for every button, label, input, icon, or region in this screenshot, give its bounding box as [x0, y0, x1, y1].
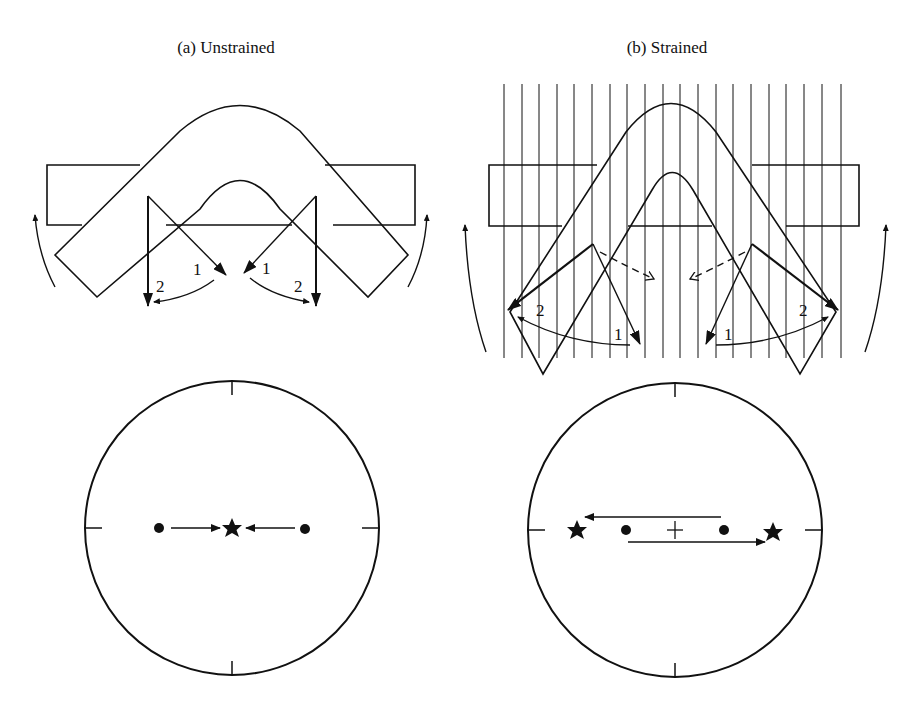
- label-b-1-left: 1: [614, 325, 623, 344]
- star-icon-right: [763, 522, 783, 541]
- star-icon-left: [567, 520, 587, 539]
- panel-b-rays: [465, 225, 886, 352]
- label-b-1-right: 1: [724, 325, 733, 344]
- panel-a-rays: [35, 196, 427, 306]
- label-a-2-left: 2: [156, 277, 165, 296]
- label-b-2-left: 2: [536, 301, 545, 320]
- panel-a-crystal-diagram: [47, 106, 415, 298]
- panel-b-field-lines: [504, 84, 841, 358]
- slab-outline: [47, 165, 415, 225]
- label-a-2-right: 2: [294, 277, 303, 296]
- chevron-outer: [510, 104, 836, 375]
- figure-canvas: 1 2 1 2: [0, 0, 919, 710]
- label-a-1-right: 1: [262, 259, 271, 278]
- pole-dot-left: [154, 523, 164, 533]
- label-a-1-left: 1: [193, 260, 202, 279]
- star-icon: [222, 518, 242, 537]
- chevron-outer: [55, 106, 408, 298]
- label-b-2-right: 2: [799, 301, 808, 320]
- pole-dot-left: [621, 525, 631, 535]
- pole-dot-right: [719, 525, 729, 535]
- pole-dot-right: [300, 524, 310, 534]
